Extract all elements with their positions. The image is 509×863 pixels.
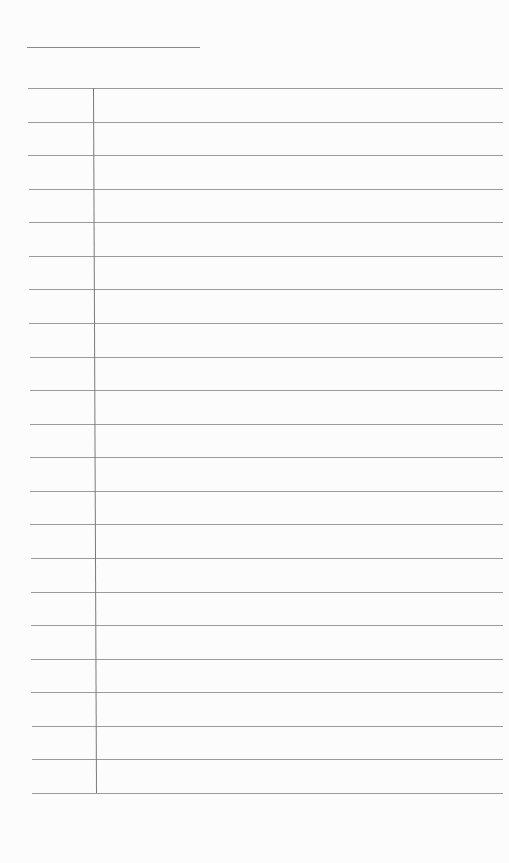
lined-form-page [0,0,509,863]
row-rule-line [28,88,503,89]
row-rule-line [32,793,503,794]
row-rule-line [31,659,503,660]
row-rule-line [32,759,503,760]
row-rule-line [28,122,503,123]
row-rule-line [30,457,503,458]
row-rule-line [30,424,503,425]
column-divider-line [93,88,97,793]
row-rule-line [30,357,503,358]
row-rule-line [29,323,503,324]
row-rule-line [30,524,503,525]
row-rule-line [29,256,503,257]
row-rule-line [29,222,503,223]
row-rule-line [29,289,503,290]
row-rule-line [32,726,503,727]
row-rule-line [31,692,503,693]
row-rule-line [31,592,503,593]
title-blank-line [27,47,200,48]
row-rule-line [28,155,503,156]
row-rule-line [29,189,503,190]
row-rule-line [31,625,503,626]
row-rule-line [31,558,503,559]
row-rule-line [30,390,503,391]
row-rule-line [30,491,503,492]
